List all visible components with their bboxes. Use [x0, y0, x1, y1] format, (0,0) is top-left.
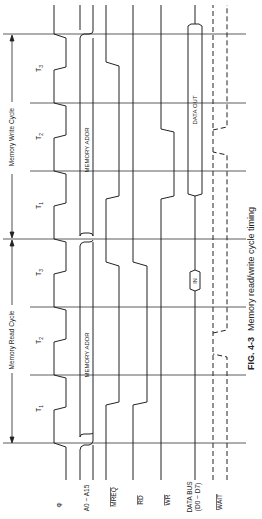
wait-waveform [213, 5, 227, 480]
write-t2-label: T2 [35, 133, 44, 140]
read-t2-label: T2 [35, 337, 44, 344]
clock-label: Φ [56, 502, 63, 507]
data-out-annotation: DATA OUT [192, 95, 198, 124]
wr-label: WR [164, 494, 171, 505]
mreq-label: MREQ [110, 487, 118, 507]
data-bus-sublabel: (D0 ~ D7) [194, 483, 202, 511]
address-label: A0 ~ A15 [83, 484, 90, 511]
t-state-labels: T3 T2 T1 T3 T2 T1 [35, 65, 44, 412]
address-read-annotation: MEMORY ADDR [84, 332, 90, 378]
clock-waveform [54, 5, 66, 480]
mreq-waveform [106, 5, 119, 480]
data-bus-waveform [188, 5, 202, 480]
read-t1-label: T1 [35, 405, 44, 412]
read-cycle-label: Memory Read Cycle [8, 310, 16, 369]
rd-label: RD [137, 495, 144, 505]
rd-waveform [133, 5, 147, 480]
data-in-annotation: IN [192, 278, 198, 284]
write-cycle-label: Memory Write Cycle [8, 107, 16, 166]
read-t3-label: T3 [35, 269, 44, 276]
figure-caption: FIG. 4-3Memory read/write cycle timing [246, 207, 256, 370]
data-bus-label: DATA BUS [186, 481, 193, 513]
t-state-grid [3, 34, 246, 443]
timing-diagram: Memory Write Cycle Memory Read Cycle T3 … [0, 0, 262, 519]
address-bus-waveform [80, 5, 93, 480]
wait-label: WAIT [216, 494, 223, 510]
write-t1-label: T1 [35, 202, 44, 209]
signal-labels: Φ A0 ~ A15 MREQ RD WR DATA BUS (D0 ~ D7)… [56, 481, 223, 513]
address-write-annotation: MEMORY ADDR [84, 127, 90, 173]
write-t3-label: T3 [35, 65, 44, 72]
wr-waveform [161, 5, 174, 480]
